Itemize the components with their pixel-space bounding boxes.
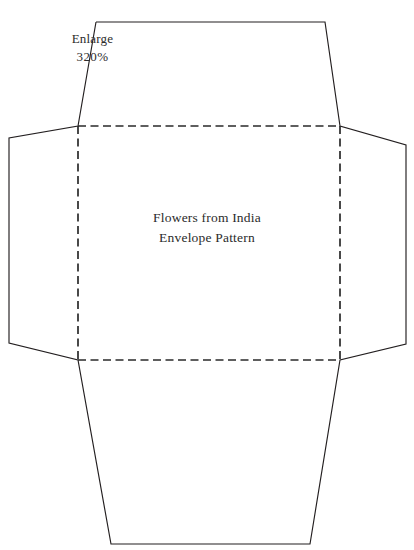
enlarge-instruction: Enlarge 320% <box>0 30 185 65</box>
envelope-pattern-page: Enlarge 320% Flowers from India Envelope… <box>0 0 414 550</box>
envelope-pattern-drawing <box>0 0 414 550</box>
pattern-title-line2: Envelope Pattern <box>0 228 414 248</box>
enlarge-instruction-line2: 320% <box>0 48 185 66</box>
pattern-title: Flowers from India Envelope Pattern <box>0 208 414 248</box>
cut-outline <box>9 22 406 544</box>
pattern-title-line1: Flowers from India <box>0 208 414 228</box>
enlarge-instruction-line1: Enlarge <box>0 30 185 48</box>
